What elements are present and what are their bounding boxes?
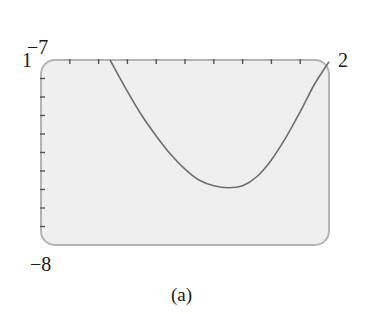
y-min-label: −8 [30, 254, 51, 274]
viewing-window-frame [41, 60, 329, 245]
chart-figure: −7 1 2 −8 (a) [0, 0, 369, 314]
x-max-label: 2 [338, 50, 348, 70]
plot-area [0, 0, 369, 314]
figure-caption: (a) [171, 285, 192, 304]
x-min-label: 1 [22, 50, 32, 70]
